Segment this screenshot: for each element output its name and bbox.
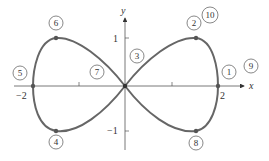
marker-9: 9 [244,59,258,73]
y-axis-label: y [120,5,126,16]
point-max-left [54,36,58,40]
marker-1: 1 [222,65,236,79]
svg-text:3: 3 [135,51,140,61]
marker-10: 10 [202,7,218,23]
figure-eight-diagram: x y −2 2 1 −1 1 2 3 4 5 6 7 8 9 10 [0,0,269,161]
x-axis-label: x [248,80,254,91]
point-max-right [194,36,198,40]
marker-2: 2 [187,16,201,30]
point-x2 [216,84,220,88]
svg-text:1: 1 [227,67,232,77]
svg-text:8: 8 [194,138,199,148]
marker-3: 3 [130,49,144,63]
marker-4: 4 [49,135,63,149]
marker-6: 6 [49,16,63,30]
point-min-left [54,129,58,133]
svg-text:5: 5 [18,68,23,78]
point-origin [123,84,127,88]
point-xneg2 [31,84,35,88]
y-tick-label-neg1: −1 [107,125,118,136]
marker-5: 5 [13,66,27,80]
svg-text:6: 6 [54,18,59,28]
svg-text:7: 7 [95,67,100,77]
x-tick-label-neg2: −2 [16,90,27,101]
marker-7: 7 [90,65,104,79]
svg-text:2: 2 [192,18,197,28]
marker-8: 8 [189,136,203,150]
point-min-right [194,129,198,133]
svg-text:10: 10 [206,10,216,20]
y-tick-label-1: 1 [113,33,118,44]
svg-text:9: 9 [249,61,254,71]
svg-text:4: 4 [54,137,59,147]
x-tick-label-2: 2 [220,90,225,101]
